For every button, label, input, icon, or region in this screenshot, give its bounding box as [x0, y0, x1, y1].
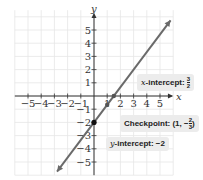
svg-text:4: 4: [144, 98, 150, 109]
y-intercept-text: -intercept: −2: [115, 139, 165, 148]
y-axis-label: y: [90, 3, 97, 14]
x-intercept-text: -intercept:: [146, 78, 187, 87]
svg-text:−1: −1: [76, 104, 91, 115]
svg-text:5: 5: [157, 98, 163, 109]
svg-text:1: 1: [85, 77, 91, 88]
svg-text:4: 4: [85, 38, 91, 49]
svg-text:5: 5: [85, 25, 91, 36]
y-intercept-callout: y-intercept: −2: [106, 137, 169, 151]
x-intercept-fraction: 32: [187, 76, 190, 89]
svg-text:2: 2: [117, 98, 123, 109]
svg-text:2: 2: [85, 64, 91, 75]
svg-text:3: 3: [130, 98, 136, 109]
x-intercept-callout: x-intercept: 32: [137, 74, 194, 91]
checkpoint-callout: Checkpoint: (1, −23): [120, 115, 199, 132]
svg-text:−4: −4: [76, 143, 91, 154]
svg-text:−2: −2: [76, 117, 91, 128]
svg-text:−5: −5: [76, 157, 91, 168]
x-axis-label: x: [176, 91, 182, 102]
checkpoint-text: Checkpoint: (1, −: [124, 119, 189, 128]
checkpoint-suffix: ): [192, 119, 195, 128]
svg-text:3: 3: [85, 51, 91, 62]
